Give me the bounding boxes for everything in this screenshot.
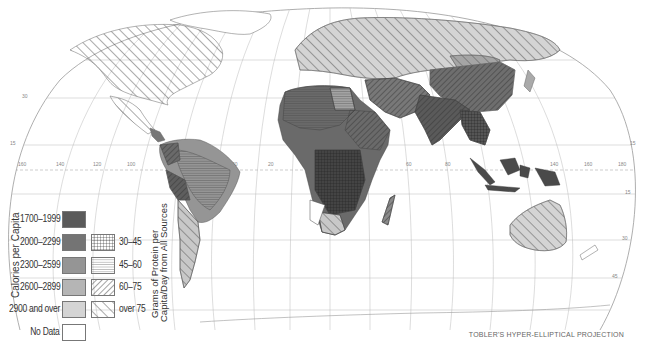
svg-text:15: 15 xyxy=(625,189,631,195)
world-map: 160 140 120 100 40 20 0 60 80 140 160 18… xyxy=(0,0,646,344)
svg-text:120: 120 xyxy=(93,161,102,167)
antarctica xyxy=(200,305,610,322)
svg-text:100: 100 xyxy=(127,161,136,167)
svg-text:180: 180 xyxy=(618,161,627,167)
indonesia xyxy=(470,158,560,192)
svg-text:140: 140 xyxy=(56,161,65,167)
svg-text:20: 20 xyxy=(268,161,274,167)
svg-text:80: 80 xyxy=(445,161,451,167)
svg-text:15: 15 xyxy=(630,140,636,146)
svg-text:160: 160 xyxy=(584,161,593,167)
svg-text:60: 60 xyxy=(406,161,412,167)
svg-text:30: 30 xyxy=(622,235,628,241)
svg-text:160: 160 xyxy=(18,161,27,167)
svg-text:15: 15 xyxy=(10,140,16,146)
svg-text:45: 45 xyxy=(612,273,618,279)
australia xyxy=(510,200,598,260)
africa xyxy=(278,86,395,235)
north-america xyxy=(70,11,271,142)
svg-text:30: 30 xyxy=(22,93,28,99)
svg-text:140: 140 xyxy=(550,161,559,167)
